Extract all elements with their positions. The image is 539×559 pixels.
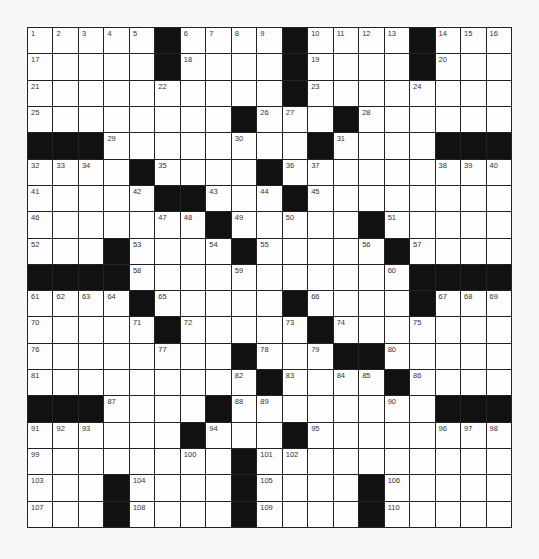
- grid-cell[interactable]: [206, 81, 230, 106]
- grid-cell[interactable]: [334, 239, 358, 264]
- grid-cell[interactable]: 109: [257, 502, 281, 527]
- grid-cell[interactable]: 35: [155, 160, 179, 185]
- grid-cell[interactable]: [155, 396, 179, 421]
- grid-cell[interactable]: [155, 475, 179, 500]
- grid-cell[interactable]: [334, 81, 358, 106]
- grid-cell[interactable]: 74: [334, 317, 358, 342]
- grid-cell[interactable]: [257, 54, 281, 79]
- grid-cell[interactable]: [130, 133, 154, 158]
- grid-cell[interactable]: 57: [410, 239, 434, 264]
- grid-cell[interactable]: [257, 265, 281, 290]
- grid-cell[interactable]: 33: [53, 160, 77, 185]
- grid-cell[interactable]: 56: [359, 239, 383, 264]
- grid-cell[interactable]: [206, 133, 230, 158]
- grid-cell[interactable]: 100: [181, 449, 205, 474]
- grid-cell[interactable]: 13: [385, 28, 409, 53]
- grid-cell[interactable]: 38: [436, 160, 460, 185]
- grid-cell[interactable]: 37: [308, 160, 332, 185]
- grid-cell[interactable]: [155, 107, 179, 132]
- grid-cell[interactable]: 82: [232, 370, 256, 395]
- grid-cell[interactable]: [283, 133, 307, 158]
- grid-cell[interactable]: 28: [359, 107, 383, 132]
- grid-cell[interactable]: [79, 449, 103, 474]
- grid-cell[interactable]: 14: [436, 28, 460, 53]
- grid-cell[interactable]: [155, 502, 179, 527]
- grid-cell[interactable]: 44: [257, 186, 281, 211]
- grid-cell[interactable]: [181, 107, 205, 132]
- grid-cell[interactable]: [461, 54, 485, 79]
- grid-cell[interactable]: 63: [79, 291, 103, 316]
- grid-cell[interactable]: [79, 239, 103, 264]
- grid-cell[interactable]: [53, 186, 77, 211]
- grid-cell[interactable]: [130, 81, 154, 106]
- grid-cell[interactable]: 52: [28, 239, 52, 264]
- grid-cell[interactable]: [130, 423, 154, 448]
- grid-cell[interactable]: [130, 449, 154, 474]
- grid-cell[interactable]: [206, 475, 230, 500]
- grid-cell[interactable]: [130, 54, 154, 79]
- grid-cell[interactable]: 50: [283, 212, 307, 237]
- grid-cell[interactable]: [308, 370, 332, 395]
- grid-cell[interactable]: [487, 344, 511, 369]
- grid-cell[interactable]: [53, 212, 77, 237]
- grid-cell[interactable]: 8: [232, 28, 256, 53]
- grid-cell[interactable]: [461, 344, 485, 369]
- grid-cell[interactable]: 9: [257, 28, 281, 53]
- grid-cell[interactable]: [257, 212, 281, 237]
- grid-cell[interactable]: [436, 344, 460, 369]
- grid-cell[interactable]: [181, 160, 205, 185]
- grid-cell[interactable]: [53, 344, 77, 369]
- grid-cell[interactable]: [104, 54, 128, 79]
- grid-cell[interactable]: [283, 396, 307, 421]
- grid-cell[interactable]: [53, 54, 77, 79]
- grid-cell[interactable]: [283, 475, 307, 500]
- grid-cell[interactable]: [385, 291, 409, 316]
- grid-cell[interactable]: [104, 344, 128, 369]
- grid-cell[interactable]: [308, 239, 332, 264]
- grid-cell[interactable]: 32: [28, 160, 52, 185]
- grid-cell[interactable]: 76: [28, 344, 52, 369]
- grid-cell[interactable]: 39: [461, 160, 485, 185]
- grid-cell[interactable]: 71: [130, 317, 154, 342]
- grid-cell[interactable]: 77: [155, 344, 179, 369]
- grid-cell[interactable]: [79, 54, 103, 79]
- grid-cell[interactable]: 87: [104, 396, 128, 421]
- grid-cell[interactable]: [334, 212, 358, 237]
- grid-cell[interactable]: 108: [130, 502, 154, 527]
- grid-cell[interactable]: 21: [28, 81, 52, 106]
- grid-cell[interactable]: 72: [181, 317, 205, 342]
- grid-cell[interactable]: [461, 370, 485, 395]
- grid-cell[interactable]: 79: [308, 344, 332, 369]
- grid-cell[interactable]: [385, 107, 409, 132]
- grid-cell[interactable]: 83: [283, 370, 307, 395]
- grid-cell[interactable]: [104, 423, 128, 448]
- grid-cell[interactable]: 41: [28, 186, 52, 211]
- grid-cell[interactable]: 29: [104, 133, 128, 158]
- grid-cell[interactable]: [461, 186, 485, 211]
- grid-cell[interactable]: 11: [334, 28, 358, 53]
- grid-cell[interactable]: [308, 107, 332, 132]
- grid-cell[interactable]: [308, 212, 332, 237]
- grid-cell[interactable]: 43: [206, 186, 230, 211]
- grid-cell[interactable]: 86: [410, 370, 434, 395]
- grid-cell[interactable]: [181, 396, 205, 421]
- grid-cell[interactable]: 89: [257, 396, 281, 421]
- grid-cell[interactable]: [359, 291, 383, 316]
- grid-cell[interactable]: [487, 107, 511, 132]
- grid-cell[interactable]: 98: [487, 423, 511, 448]
- grid-cell[interactable]: 54: [206, 239, 230, 264]
- grid-cell[interactable]: [206, 291, 230, 316]
- grid-cell[interactable]: [104, 370, 128, 395]
- grid-cell[interactable]: [206, 344, 230, 369]
- grid-cell[interactable]: 103: [28, 475, 52, 500]
- grid-cell[interactable]: [461, 475, 485, 500]
- grid-cell[interactable]: [359, 423, 383, 448]
- grid-cell[interactable]: 30: [232, 133, 256, 158]
- grid-cell[interactable]: 95: [308, 423, 332, 448]
- grid-cell[interactable]: 15: [461, 28, 485, 53]
- grid-cell[interactable]: 104: [130, 475, 154, 500]
- grid-cell[interactable]: [283, 265, 307, 290]
- grid-cell[interactable]: [206, 160, 230, 185]
- grid-cell[interactable]: [181, 133, 205, 158]
- grid-cell[interactable]: 40: [487, 160, 511, 185]
